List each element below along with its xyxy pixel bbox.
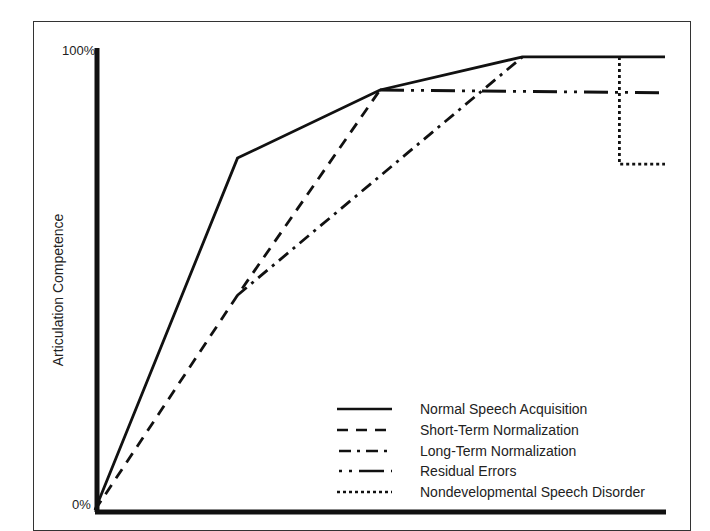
y-axis-title: Articulation Competence	[50, 214, 66, 367]
legend-item-nondevelopmental: Nondevelopmental Speech Disorder	[337, 482, 645, 502]
dashed-line-swatch-icon	[337, 425, 392, 435]
solid-line-swatch-icon	[337, 404, 392, 414]
y-tick-100: 100%	[62, 43, 95, 58]
series-line-residual-errors	[380, 90, 665, 93]
legend-item-normal: Normal Speech Acquisition	[337, 399, 587, 419]
legend-label: Residual Errors	[420, 463, 516, 479]
legend-item-short-term: Short-Term Normalization	[337, 420, 579, 440]
dash-dot-dot-line-swatch-icon	[337, 466, 392, 476]
dotted-line-swatch-icon	[337, 487, 392, 497]
dash-dot-line-swatch-icon	[337, 446, 392, 456]
legend-label: Short-Term Normalization	[420, 422, 579, 438]
legend-label: Normal Speech Acquisition	[420, 401, 587, 417]
y-tick-0: 0%	[72, 497, 91, 512]
legend-label: Long-Term Normalization	[420, 443, 576, 459]
legend-item-residual: Residual Errors	[337, 461, 516, 481]
legend-item-long-term: Long-Term Normalization	[337, 441, 576, 461]
series-line-long-term-normalization	[238, 57, 523, 295]
legend-label: Nondevelopmental Speech Disorder	[420, 484, 645, 500]
series-line-nondevelopmental-speech-disorder	[619, 57, 665, 164]
